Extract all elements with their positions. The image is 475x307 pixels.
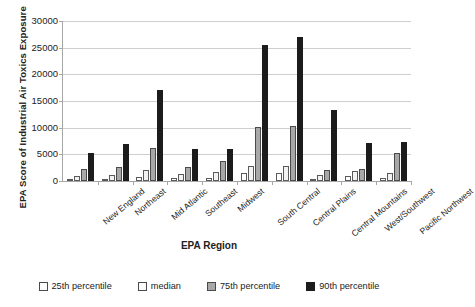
bar-group bbox=[272, 21, 307, 181]
bar-group bbox=[167, 21, 202, 181]
x-axis-category-label: Midwest bbox=[236, 186, 267, 214]
bar bbox=[290, 126, 296, 181]
bar-group bbox=[202, 21, 237, 181]
bar-group bbox=[307, 21, 342, 181]
x-axis-category-labels: New EnglandNortheastMid AtlanticSoutheas… bbox=[62, 183, 410, 241]
bar bbox=[366, 143, 372, 181]
bar-group bbox=[133, 21, 168, 181]
bar bbox=[324, 170, 330, 181]
y-axis-tick-label: 5000 bbox=[37, 150, 58, 160]
bar bbox=[136, 177, 142, 181]
bar bbox=[192, 149, 198, 181]
bar bbox=[185, 167, 191, 181]
legend-label: median bbox=[151, 281, 181, 291]
legend-label: 90th percentile bbox=[319, 281, 379, 291]
bar bbox=[74, 176, 80, 181]
bar-group bbox=[341, 21, 376, 181]
bar bbox=[359, 169, 365, 181]
bar bbox=[262, 45, 268, 181]
x-axis-category-label: Mid Atlantic bbox=[169, 186, 209, 222]
bar bbox=[331, 110, 337, 181]
bar bbox=[297, 37, 303, 181]
bar bbox=[310, 179, 316, 181]
bar bbox=[317, 175, 323, 181]
bar bbox=[401, 142, 407, 181]
bar bbox=[387, 173, 393, 181]
bar bbox=[227, 149, 233, 181]
legend-swatch-icon bbox=[39, 282, 48, 291]
bar bbox=[241, 173, 247, 181]
bar bbox=[150, 148, 156, 181]
y-axis-tick-label: 30000 bbox=[32, 16, 58, 26]
legend-swatch-icon bbox=[207, 282, 216, 291]
bar bbox=[220, 161, 226, 181]
bar-group bbox=[376, 21, 411, 181]
x-axis-title: EPA Region bbox=[0, 240, 418, 251]
bar-group bbox=[237, 21, 272, 181]
y-axis-tick-label: 20000 bbox=[32, 70, 58, 80]
bar-group bbox=[98, 21, 133, 181]
bar-group bbox=[63, 21, 98, 181]
bar bbox=[178, 174, 184, 181]
y-axis-tick-label: 0 bbox=[53, 176, 58, 186]
legend-label: 25th percentile bbox=[52, 281, 112, 291]
bar bbox=[102, 179, 108, 181]
bar bbox=[109, 175, 115, 181]
chart-legend: 25th percentilemedian75th percentile90th… bbox=[0, 281, 418, 291]
bar bbox=[213, 172, 219, 181]
bar bbox=[283, 166, 289, 181]
bar bbox=[143, 170, 149, 181]
bar bbox=[81, 169, 87, 181]
legend-label: 75th percentile bbox=[220, 281, 280, 291]
legend-item: 75th percentile bbox=[207, 281, 280, 291]
bar bbox=[67, 179, 73, 181]
bar bbox=[345, 176, 351, 181]
legend-swatch-icon bbox=[138, 282, 147, 291]
y-axis-tick-labels: 050001000015000200002500030000 bbox=[0, 21, 58, 181]
y-axis-tick-label: 10000 bbox=[32, 123, 58, 133]
bar bbox=[276, 173, 282, 181]
legend-item: 90th percentile bbox=[306, 281, 379, 291]
bar bbox=[394, 153, 400, 181]
y-axis-tick-mark bbox=[59, 181, 63, 182]
x-axis-tick-mark bbox=[411, 181, 412, 185]
bar bbox=[380, 178, 386, 181]
bar bbox=[248, 166, 254, 181]
bar bbox=[116, 167, 122, 181]
y-axis-tick-label: 25000 bbox=[32, 43, 58, 53]
legend-item: median bbox=[138, 281, 181, 291]
legend-item: 25th percentile bbox=[39, 281, 112, 291]
bar bbox=[88, 153, 94, 181]
bar bbox=[123, 144, 129, 181]
bar bbox=[157, 90, 163, 181]
bar bbox=[255, 127, 261, 181]
x-axis-category-label: Southeast bbox=[203, 186, 239, 219]
bar bbox=[352, 171, 358, 181]
bar bbox=[171, 178, 177, 181]
y-axis-tick-label: 15000 bbox=[32, 96, 58, 106]
plot-area bbox=[62, 21, 411, 182]
legend-swatch-icon bbox=[306, 282, 315, 291]
bar bbox=[206, 178, 212, 181]
